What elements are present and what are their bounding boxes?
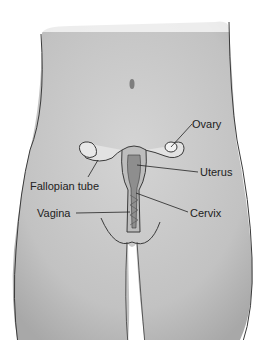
label-vagina: Vagina: [37, 207, 70, 219]
label-ovary: Ovary: [192, 118, 221, 130]
navel: [130, 79, 135, 89]
label-fallopian-tube: Fallopian tube: [30, 180, 99, 192]
label-cervix: Cervix: [190, 207, 221, 219]
anatomy-illustration: [0, 0, 264, 356]
label-uterus: Uterus: [200, 166, 232, 178]
